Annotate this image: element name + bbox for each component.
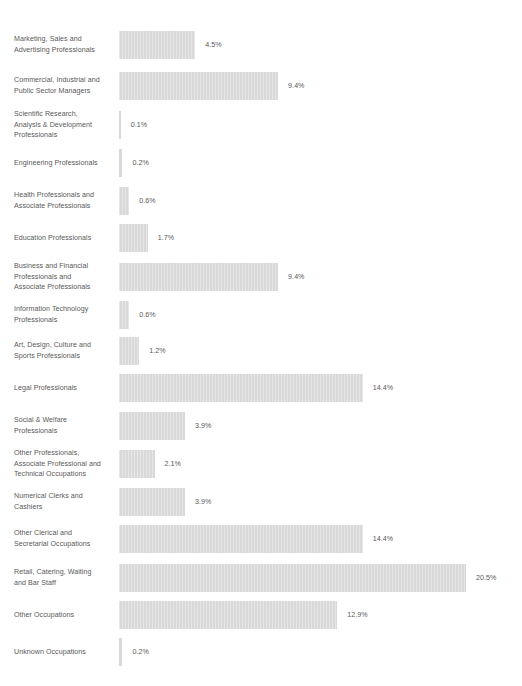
bar-zone: 9.4% [119, 257, 304, 297]
category-label-line: Cashiers [14, 502, 114, 513]
bar-value-label: 0.6% [139, 197, 155, 205]
bar-row: Education Professionals1.7% [0, 218, 522, 258]
category-label-line: Social & Welfare [14, 415, 114, 426]
bar-zone: 0.6% [119, 295, 156, 335]
category-label-line: Analysis & Development [14, 120, 114, 131]
category-label: Numerical Clerks andCashiers [14, 491, 114, 512]
bar-row: Other Professionals,Associate Profession… [0, 444, 522, 484]
bar[interactable] [119, 638, 122, 666]
bar-value-label: 0.2% [132, 159, 148, 167]
category-label: Scientific Research,Analysis & Developme… [14, 109, 114, 141]
category-label-line: Advertising Professionals [14, 45, 114, 56]
bar-row: Other Clerical andSecretarial Occupation… [0, 519, 522, 559]
category-label: Engineering Professionals [14, 158, 114, 169]
category-label-line: Public Sector Managers [14, 86, 114, 97]
bar-value-label: 20.5% [476, 574, 496, 582]
category-label: Art, Design, Culture andSports Professio… [14, 340, 114, 361]
category-label-line: Marketing, Sales and [14, 34, 114, 45]
bar-zone: 0.2% [119, 632, 149, 672]
bar[interactable] [119, 337, 139, 365]
category-label: Marketing, Sales andAdvertising Professi… [14, 34, 114, 55]
category-label-line: Numerical Clerks and [14, 491, 114, 502]
bar-value-label: 1.7% [158, 234, 174, 242]
category-label: Other Clerical andSecretarial Occupation… [14, 528, 114, 549]
bar-zone: 12.9% [119, 595, 368, 635]
bar-row: Art, Design, Culture andSports Professio… [0, 331, 522, 371]
category-label-line: Professionals [14, 426, 114, 437]
bar-row: Retail, Catering, Waitingand Bar Staff20… [0, 558, 522, 598]
bar-zone: 1.7% [119, 218, 174, 258]
bar[interactable] [119, 412, 185, 440]
bar-value-label: 0.1% [131, 121, 147, 129]
bar[interactable] [119, 488, 185, 516]
category-label-line: Professionals [14, 130, 114, 141]
category-label-line: Business and Financial [14, 261, 114, 272]
bar-row: Legal Professionals14.4% [0, 368, 522, 408]
bar-zone: 14.4% [119, 519, 393, 559]
category-label-line: Associate Professional and [14, 459, 114, 470]
bar-row: Commercial, Industrial andPublic Sector … [0, 66, 522, 106]
category-label-line: Unknown Occupations [14, 647, 114, 658]
category-label: Education Professionals [14, 233, 114, 244]
bar-zone: 0.2% [119, 143, 149, 183]
category-label: Information TechnologyProfessionals [14, 304, 114, 325]
category-label-line: Engineering Professionals [14, 158, 114, 169]
category-label: Legal Professionals [14, 383, 114, 394]
bar[interactable] [119, 374, 363, 402]
category-label: Other Professionals,Associate Profession… [14, 448, 114, 480]
category-label-line: Associate Professionals [14, 201, 114, 212]
category-label-line: Retail, Catering, Waiting [14, 567, 114, 578]
bar-row: Other Occupations12.9% [0, 595, 522, 635]
bar[interactable] [119, 263, 278, 291]
bar-value-label: 14.4% [373, 384, 393, 392]
bar[interactable] [119, 149, 122, 177]
bar-row: Business and FinancialProfessionals andA… [0, 257, 522, 297]
bar-value-label: 14.4% [373, 535, 393, 543]
bar-row: Scientific Research,Analysis & Developme… [0, 105, 522, 145]
bar[interactable] [119, 224, 148, 252]
bar-value-label: 2.1% [165, 460, 181, 468]
bar-zone: 0.1% [119, 105, 147, 145]
bar-zone: 0.6% [119, 181, 156, 221]
bar-zone: 3.9% [119, 406, 211, 446]
category-label-line: Sports Professionals [14, 351, 114, 362]
bar-value-label: 4.5% [205, 41, 221, 49]
bar-zone: 14.4% [119, 368, 393, 408]
bar-row: Numerical Clerks andCashiers3.9% [0, 482, 522, 522]
bar-zone: 9.4% [119, 66, 304, 106]
bar[interactable] [119, 187, 129, 215]
category-label-line: Other Professionals, [14, 448, 114, 459]
category-label-line: Other Clerical and [14, 528, 114, 539]
bar[interactable] [119, 564, 466, 592]
category-label: Business and FinancialProfessionals andA… [14, 261, 114, 293]
category-label-line: Scientific Research, [14, 109, 114, 120]
category-label-line: Professionals and [14, 272, 114, 283]
category-label-line: Information Technology [14, 304, 114, 315]
bar[interactable] [119, 31, 195, 59]
bar-row: Social & WelfareProfessionals3.9% [0, 406, 522, 446]
bar[interactable] [119, 601, 337, 629]
category-label-line: Health Professionals and [14, 190, 114, 201]
bar[interactable] [119, 301, 129, 329]
bar-row: Unknown Occupations0.2% [0, 632, 522, 672]
category-label-line: Other Occupations [14, 610, 114, 621]
bar-zone: 3.9% [119, 482, 211, 522]
category-label: Social & WelfareProfessionals [14, 415, 114, 436]
horizontal-bar-chart: Marketing, Sales andAdvertising Professi… [0, 0, 522, 686]
bar-value-label: 0.2% [132, 648, 148, 656]
bar-zone: 2.1% [119, 444, 181, 484]
bar-row: Marketing, Sales andAdvertising Professi… [0, 25, 522, 65]
bar[interactable] [119, 72, 278, 100]
bar-value-label: 1.2% [149, 347, 165, 355]
category-label: Retail, Catering, Waitingand Bar Staff [14, 567, 114, 588]
bar-zone: 4.5% [119, 25, 222, 65]
category-label-line: and Bar Staff [14, 578, 114, 589]
bar[interactable] [119, 111, 121, 139]
bar-row: Information TechnologyProfessionals0.6% [0, 295, 522, 335]
bar[interactable] [119, 450, 155, 478]
bar-row: Health Professionals andAssociate Profes… [0, 181, 522, 221]
bar-value-label: 12.9% [347, 611, 367, 619]
category-label-line: Professionals [14, 315, 114, 326]
category-label-line: Legal Professionals [14, 383, 114, 394]
bar[interactable] [119, 525, 363, 553]
